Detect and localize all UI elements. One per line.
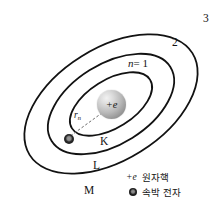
radius-label: rn: [74, 111, 81, 122]
legend: +e 원자핵 속박 전자: [126, 169, 214, 199]
legend-key-nucleus: +e: [126, 172, 142, 182]
orbit-label-n-value: = 1: [134, 57, 148, 69]
shell-label-m: M: [84, 185, 94, 197]
shell-label-l: L: [93, 160, 100, 172]
bound-electron: [64, 134, 74, 144]
legend-item-nucleus: +e 원자핵: [126, 169, 214, 184]
legend-item-electron: 속박 전자: [126, 184, 214, 199]
shell-label-k: K: [100, 136, 108, 148]
nucleus-charge-label: +e: [106, 99, 117, 110]
bohr-atomic-model-figure: +e rn n= 1 2 3 K L M +e 원자핵 속박 전자: [0, 0, 220, 214]
legend-key-electron: [126, 188, 142, 196]
legend-label-nucleus: 원자핵: [142, 170, 169, 184]
orbit-label-n1: n= 1: [128, 58, 148, 69]
legend-nucleus-charge-text: +e: [126, 172, 137, 182]
radius-label-subscript: n: [78, 114, 81, 121]
nucleus: +e: [97, 90, 126, 119]
orbit-label-3: 3: [203, 13, 209, 25]
electron-dot-icon: [129, 188, 137, 196]
legend-label-electron: 속박 전자: [142, 185, 181, 199]
orbit-label-2: 2: [172, 37, 178, 49]
